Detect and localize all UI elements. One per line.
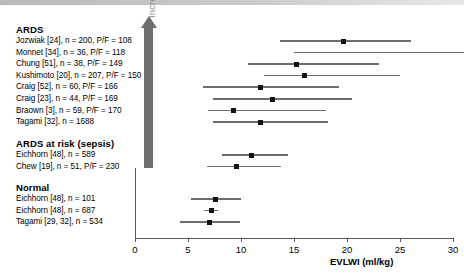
x-axis-tick-label: 5 xyxy=(173,244,203,255)
data-point-marker xyxy=(270,97,275,102)
study-row-label: Chung [51], n = 38, P/F = 149 xyxy=(16,59,122,68)
data-point-marker xyxy=(231,108,236,113)
x-axis-tick xyxy=(453,238,454,242)
x-axis-tick-label: 15 xyxy=(279,244,309,255)
x-axis-tick-label: 30 xyxy=(438,244,464,255)
x-axis-tick xyxy=(294,238,295,242)
data-point-marker xyxy=(294,62,299,67)
study-row-label: Eichhorn [48], n = 687 xyxy=(16,206,95,215)
data-point-marker xyxy=(258,85,263,90)
study-row-label: Tagami [32], n = 1688 xyxy=(16,117,94,126)
data-point-marker xyxy=(207,220,212,225)
data-point-marker xyxy=(234,164,239,169)
data-point-marker xyxy=(213,197,218,202)
group-heading: ARDS xyxy=(16,24,43,35)
severity-arrow-label: Increasing Severity of Lung Injury xyxy=(146,0,157,18)
study-row-label: Monnet [34], n = 36, P/F = 118 xyxy=(16,48,125,57)
x-axis-tick xyxy=(347,238,348,242)
confidence-interval-line xyxy=(248,63,378,65)
study-row-label: Tagami [29, 32], n = 534 xyxy=(16,217,103,226)
x-axis-tick-label: 0 xyxy=(120,244,150,255)
x-axis-tick xyxy=(135,238,136,242)
x-axis-tick-label: 10 xyxy=(226,244,256,255)
data-point-marker xyxy=(249,153,254,158)
confidence-interval-line xyxy=(203,86,339,88)
study-row-label: Chew [19], n = 51, P/F = 230 xyxy=(16,162,119,171)
y-axis-line xyxy=(135,168,136,238)
confidence-interval-line xyxy=(264,75,400,77)
data-point-marker xyxy=(341,39,346,44)
study-row-label: Kushimoto [20], n = 207, P/F = 150 xyxy=(16,71,141,80)
forest-plot: ARDSJozwiak [24], n = 200, P/F = 108Monn… xyxy=(0,0,464,274)
study-row-label: Eichhorn [48], n = 589 xyxy=(16,150,95,159)
x-axis-tick xyxy=(188,238,189,242)
x-axis-tick-label: 25 xyxy=(385,244,415,255)
confidence-interval-line xyxy=(213,121,327,123)
data-point-marker xyxy=(302,73,307,78)
study-row-label: Eichhorn [48], n = 101 xyxy=(16,194,95,203)
data-point-marker xyxy=(209,208,214,213)
confidence-interval-line xyxy=(208,110,326,112)
data-point-marker xyxy=(258,120,263,125)
confidence-interval-line xyxy=(213,98,352,100)
study-row-label: Jozwiak [24], n = 200, P/F = 108 xyxy=(16,36,132,45)
confidence-interval-line xyxy=(294,52,464,54)
x-axis-tick xyxy=(400,238,401,242)
group-heading: Normal xyxy=(16,182,49,193)
group-heading: ARDS at risk (sepsis) xyxy=(16,138,114,149)
severity-arrow-icon xyxy=(141,16,157,168)
confidence-interval-line xyxy=(222,154,288,156)
study-row-label: Braown [3], n = 59, P/F = 170 xyxy=(16,106,122,115)
confidence-interval-line xyxy=(207,166,281,168)
study-row-label: Craig [52], n = 60, P/F = 166 xyxy=(16,82,118,91)
x-axis-tick-label: 20 xyxy=(332,244,362,255)
x-axis-label: EVLWI (ml/kg) xyxy=(330,256,393,267)
x-axis-tick xyxy=(241,238,242,242)
study-row-label: Craig [23], n = 44, P/F = 169 xyxy=(16,94,118,103)
